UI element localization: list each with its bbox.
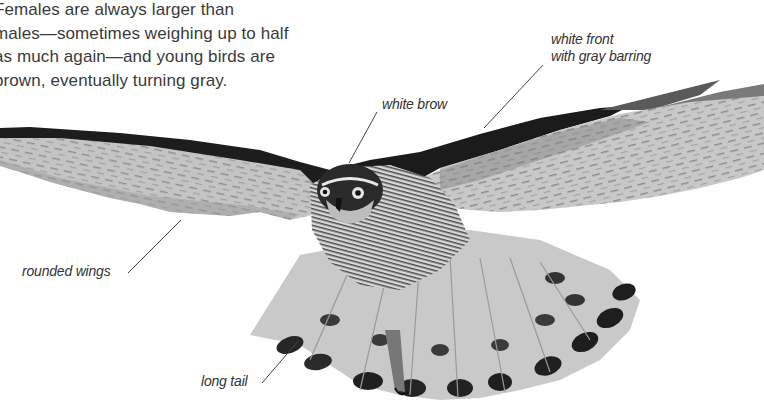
intro-line: males—sometimes weighing up to half xyxy=(0,22,324,46)
intro-paragraph: Females are always larger than males—som… xyxy=(0,0,324,92)
intro-line: as much again—and young birds are xyxy=(0,45,324,69)
leader-line-white-front xyxy=(484,65,543,128)
callout-white-front-line1: white front xyxy=(551,31,651,48)
intro-line: brown, eventually turning gray. xyxy=(0,69,324,93)
leader-line-rounded-wings xyxy=(128,220,181,273)
callout-white-front: white front with gray barring xyxy=(551,31,651,64)
leader-line-white-brow xyxy=(349,112,377,163)
callout-white-front-line2: with gray barring xyxy=(551,48,651,65)
callout-rounded-wings: rounded wings xyxy=(22,263,110,280)
intro-line: Females are always larger than xyxy=(0,0,324,22)
callout-white-brow: white brow xyxy=(382,96,447,113)
callout-long-tail: long tail xyxy=(201,373,247,390)
